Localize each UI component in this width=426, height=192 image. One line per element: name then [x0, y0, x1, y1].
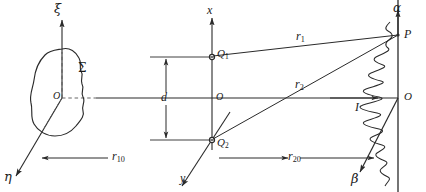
- r20-label: r20: [288, 150, 301, 164]
- source-origin-label: O: [53, 91, 60, 101]
- q2-label: Q2: [217, 137, 229, 149]
- point-p-label: P: [404, 28, 411, 40]
- q1-label: Q1: [217, 48, 229, 60]
- ray-r1: [213, 35, 398, 56]
- aperture-origin-label: O: [216, 92, 223, 102]
- interference-geometry-figure: ξ η Σ O r10 x y O Q1 Q2 d r20 r1 r2 α β …: [0, 0, 426, 192]
- xi-axis-label: ξ: [54, 2, 61, 15]
- beta-axis-label: β: [351, 172, 359, 185]
- sigma-surface-label: Σ: [78, 62, 86, 74]
- point-p-marker: [396, 33, 399, 36]
- figure-canvas: [0, 0, 426, 192]
- r10-label: r10: [112, 150, 125, 164]
- eta-axis-label: η: [4, 170, 12, 183]
- beta-axis: [360, 98, 398, 172]
- r1-label: r1: [296, 30, 305, 44]
- x-axis-label: x: [207, 4, 212, 16]
- y-axis-label: y: [180, 172, 185, 184]
- source-dashed-axes: [40, 52, 96, 135]
- alpha-axis-label: α: [393, 2, 401, 14]
- intensity-label: I: [355, 101, 359, 113]
- ray-r2: [213, 35, 398, 139]
- r2-label: r2: [295, 78, 304, 92]
- screen-origin-label: O: [404, 91, 412, 102]
- d-separation-label: d: [161, 91, 167, 103]
